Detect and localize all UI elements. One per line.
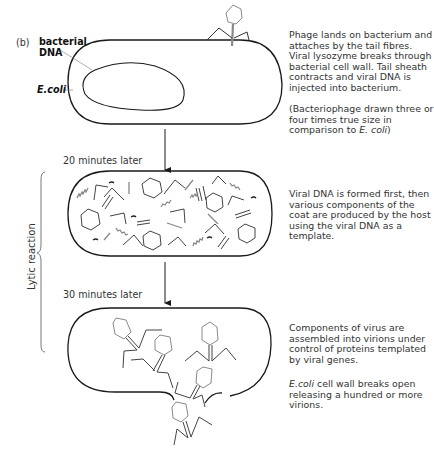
stage3-bacterium <box>68 308 271 445</box>
bacterial-dna-label-line2: DNA <box>39 47 62 58</box>
ecoli-label: E.coli <box>37 84 66 95</box>
lytic-reaction-bracket <box>37 172 45 352</box>
bacterial-dna-icon <box>83 63 184 110</box>
lytic-reaction-label: Lytic reaction <box>26 223 37 290</box>
bacterial-dna-label-line1: bacterial <box>39 36 87 47</box>
description-scale-note: (Bacteriophage drawn three or four times… <box>289 104 434 136</box>
panel-label: (b) <box>16 37 30 48</box>
description-synthesis: Viral DNA is formed first, then various … <box>289 189 434 242</box>
stage2-bacterium <box>68 171 272 256</box>
viral-components-icon <box>81 176 255 250</box>
assembled-phages-icon <box>113 318 236 445</box>
stage1-bacterium <box>57 40 282 124</box>
timepoint-30min: 30 minutes later <box>63 289 142 300</box>
timepoint-20min: 20 minutes later <box>63 155 142 166</box>
viral-dna-fragments-icon <box>77 180 240 246</box>
description-attachment: Phage lands on bacterium and attaches by… <box>289 30 434 94</box>
description-assembly: Components of virus are assembled into v… <box>289 323 434 365</box>
description-lysis: E.coli cell wall breaks open releasing a… <box>289 379 434 411</box>
